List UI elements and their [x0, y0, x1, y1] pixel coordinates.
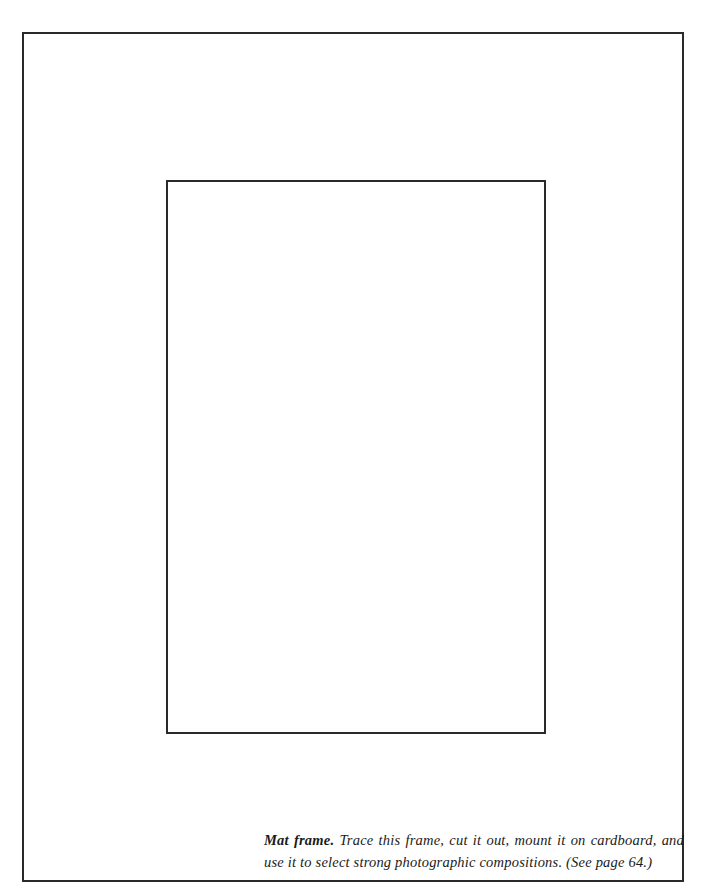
figure-caption: Mat frame. Trace this frame, cut it out,… — [264, 829, 684, 873]
caption-title: Mat frame. — [264, 832, 334, 848]
inner-mat-opening — [166, 180, 546, 734]
